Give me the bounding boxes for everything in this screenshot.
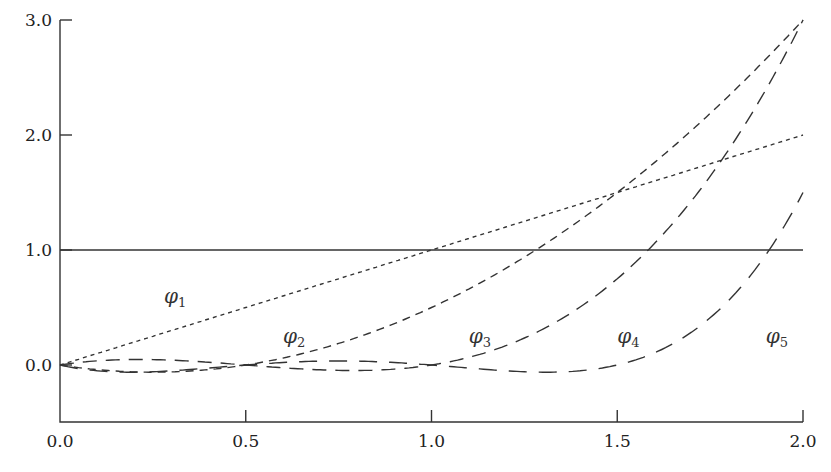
label-φ2: φ2 — [283, 324, 305, 350]
y-tick-label: 0.0 — [25, 355, 52, 375]
curves — [60, 20, 803, 372]
y-tick-label: 2.0 — [25, 125, 52, 145]
label-φ5: φ5 — [766, 324, 788, 350]
x-tick-label: 0.0 — [46, 431, 73, 451]
x-tick-label: 2.0 — [789, 431, 816, 451]
axis-lines — [60, 20, 803, 422]
y-tick-label: 3.0 — [25, 10, 52, 30]
label-φ4: φ4 — [617, 324, 639, 350]
x-tick-label: 0.5 — [232, 431, 259, 451]
y-tick-label: 1.0 — [25, 240, 52, 260]
x-tick-label: 1.0 — [418, 431, 445, 451]
curve-φ5 — [60, 193, 803, 373]
curve-labels: φ1φ2φ3φ4φ5 — [164, 284, 788, 350]
axes: 0.01.02.03.00.00.51.01.52.0 — [25, 10, 817, 451]
label-φ3: φ3 — [469, 324, 491, 350]
chart: 0.01.02.03.00.00.51.01.52.0 φ1φ2φ3φ4φ5 — [0, 0, 831, 472]
x-tick-label: 1.5 — [604, 431, 631, 451]
curve-φ4 — [60, 20, 803, 371]
label-φ1: φ1 — [164, 284, 186, 310]
curve-φ3 — [60, 20, 803, 372]
